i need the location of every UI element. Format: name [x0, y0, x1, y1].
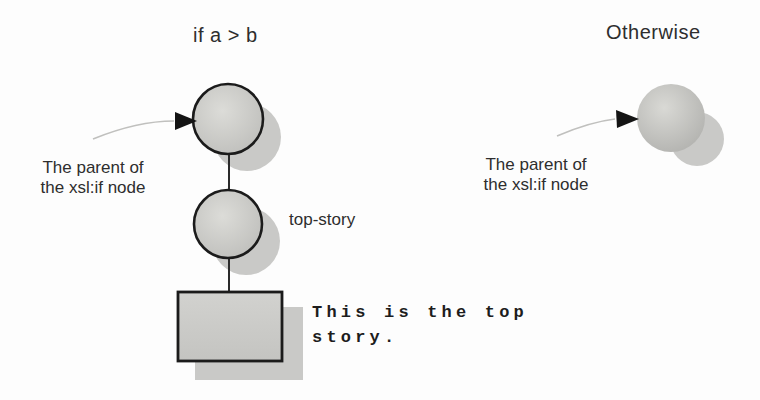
- left-pointer-curve: [93, 121, 174, 139]
- right-parent-label: The parent of the xsl:if node: [474, 155, 598, 195]
- right-arrowhead-icon: [616, 110, 639, 128]
- right-panel-title: Otherwise: [606, 21, 701, 44]
- text-node-content: This is the top story.: [312, 300, 528, 350]
- right-parent-label-line2: the xsl:if node: [474, 175, 598, 195]
- left-parent-label-line1: The parent of: [26, 158, 160, 178]
- diagram-canvas: if a > b Otherwise The parent of the xsl…: [0, 0, 760, 400]
- text-node-content-line2: story.: [312, 325, 528, 350]
- right-pointer-curve: [557, 119, 615, 136]
- text-node-rect: [178, 292, 282, 361]
- right-parent-label-line1: The parent of: [474, 155, 598, 175]
- text-node-content-line1: This is the top: [312, 300, 528, 325]
- parent-node-circle: [193, 84, 263, 154]
- top-story-node-circle: [194, 190, 262, 258]
- left-parent-label: The parent of the xsl:if node: [26, 158, 160, 198]
- otherwise-node-sphere: [637, 84, 705, 152]
- left-panel-title: if a > b: [193, 24, 258, 47]
- top-story-label: top-story: [289, 210, 355, 230]
- left-parent-label-line2: the xsl:if node: [26, 178, 160, 198]
